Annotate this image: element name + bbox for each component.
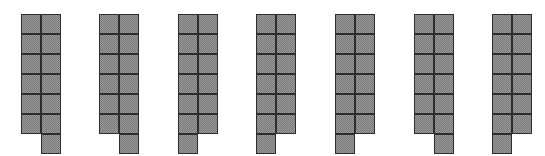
tile bbox=[41, 74, 61, 94]
tile bbox=[198, 74, 218, 94]
tile bbox=[335, 94, 355, 114]
tile bbox=[355, 114, 375, 134]
tile bbox=[198, 14, 218, 34]
tile bbox=[21, 54, 41, 74]
extra-tile-left bbox=[178, 134, 198, 154]
tile bbox=[99, 74, 119, 94]
tile bbox=[434, 54, 454, 74]
tile bbox=[256, 34, 276, 54]
tile bbox=[335, 34, 355, 54]
tile-figure-6 bbox=[414, 14, 454, 155]
tile bbox=[492, 94, 512, 114]
tile bbox=[21, 94, 41, 114]
tile bbox=[335, 54, 355, 74]
tile bbox=[41, 54, 61, 74]
tile bbox=[178, 34, 198, 54]
tile bbox=[178, 54, 198, 74]
tile bbox=[256, 74, 276, 94]
tile bbox=[256, 14, 276, 34]
tile bbox=[492, 74, 512, 94]
tile bbox=[414, 114, 434, 134]
tile bbox=[178, 94, 198, 114]
tile bbox=[492, 34, 512, 54]
tile bbox=[41, 94, 61, 114]
tile bbox=[99, 54, 119, 74]
tile bbox=[434, 94, 454, 114]
extra-tile-left bbox=[492, 134, 512, 154]
tile bbox=[276, 34, 296, 54]
tile bbox=[434, 74, 454, 94]
tile bbox=[119, 14, 139, 34]
tile bbox=[119, 74, 139, 94]
tile bbox=[355, 54, 375, 74]
tile bbox=[276, 14, 296, 34]
tile bbox=[355, 74, 375, 94]
tile bbox=[414, 54, 434, 74]
tile bbox=[335, 14, 355, 34]
tile bbox=[119, 34, 139, 54]
extra-tile-right bbox=[41, 134, 61, 154]
extra-tile-left bbox=[335, 134, 355, 154]
tile bbox=[414, 94, 434, 114]
tile bbox=[512, 74, 532, 94]
tile bbox=[21, 34, 41, 54]
tile bbox=[414, 34, 434, 54]
tile bbox=[492, 114, 512, 134]
tile bbox=[512, 94, 532, 114]
tile bbox=[355, 34, 375, 54]
tile bbox=[99, 114, 119, 134]
tile bbox=[41, 114, 61, 134]
tile bbox=[178, 114, 198, 134]
tile bbox=[256, 94, 276, 114]
tile bbox=[21, 114, 41, 134]
tile bbox=[178, 74, 198, 94]
extra-tile-right bbox=[434, 134, 454, 154]
tile bbox=[119, 114, 139, 134]
tile bbox=[414, 74, 434, 94]
tile bbox=[335, 74, 355, 94]
tile bbox=[256, 114, 276, 134]
tile bbox=[434, 14, 454, 34]
tile bbox=[198, 54, 218, 74]
tile bbox=[512, 54, 532, 74]
tile-figure-7 bbox=[492, 14, 532, 155]
tile bbox=[99, 14, 119, 34]
tile bbox=[119, 54, 139, 74]
tile-figure-2 bbox=[99, 14, 139, 155]
tile bbox=[21, 14, 41, 34]
tile bbox=[198, 114, 218, 134]
tile bbox=[198, 34, 218, 54]
tile bbox=[41, 34, 61, 54]
tile bbox=[512, 114, 532, 134]
extra-tile-left bbox=[256, 134, 276, 154]
tile-figure-4 bbox=[256, 14, 296, 155]
tile bbox=[276, 74, 296, 94]
tile bbox=[355, 14, 375, 34]
tile bbox=[119, 94, 139, 114]
tile bbox=[178, 14, 198, 34]
tile-figure-1 bbox=[21, 14, 61, 155]
tile bbox=[21, 74, 41, 94]
tile bbox=[256, 54, 276, 74]
tile bbox=[434, 34, 454, 54]
tile bbox=[434, 114, 454, 134]
tile bbox=[198, 94, 218, 114]
tile bbox=[512, 14, 532, 34]
tile bbox=[276, 94, 296, 114]
extra-tile-right bbox=[119, 134, 139, 154]
tile bbox=[492, 54, 512, 74]
tile bbox=[414, 14, 434, 34]
tile bbox=[276, 114, 296, 134]
tile bbox=[276, 54, 296, 74]
tile bbox=[355, 94, 375, 114]
tile-figure-5 bbox=[335, 14, 375, 155]
tile-figure-3 bbox=[178, 14, 218, 155]
tile bbox=[492, 14, 512, 34]
tile bbox=[99, 94, 119, 114]
tile bbox=[41, 14, 61, 34]
tile bbox=[99, 34, 119, 54]
tile bbox=[512, 34, 532, 54]
tile bbox=[335, 114, 355, 134]
